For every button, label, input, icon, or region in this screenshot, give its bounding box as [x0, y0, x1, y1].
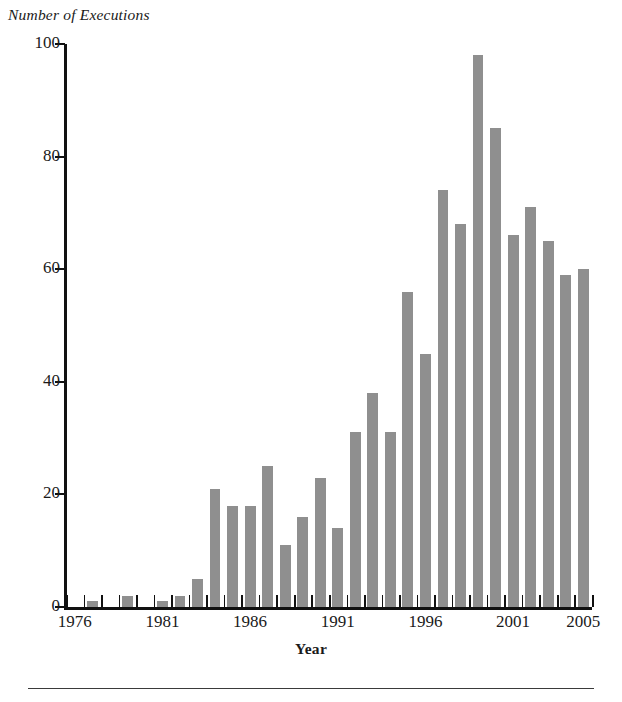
x-tick-mark — [136, 595, 138, 607]
bar-1982 — [175, 596, 186, 607]
y-axis-title: Number of Executions — [8, 6, 150, 24]
x-tick-mark — [171, 595, 173, 607]
y-tick-label: 100 — [20, 33, 60, 53]
y-axis-line — [64, 44, 67, 607]
x-tick-mark — [382, 595, 384, 607]
y-tick-label: 80 — [20, 146, 60, 166]
x-tick-label-2001: 2001 — [496, 612, 530, 632]
bar-1997 — [438, 190, 449, 607]
bar-1999 — [473, 55, 484, 607]
x-tick-mark — [347, 595, 349, 607]
y-tick-label: 0 — [20, 596, 60, 616]
x-tick-mark — [206, 595, 208, 607]
bar-2003 — [543, 241, 554, 607]
bar-1995 — [402, 292, 413, 607]
y-tick-label: 20 — [20, 483, 60, 503]
x-tick-mark — [311, 595, 313, 607]
x-tick-mark — [66, 595, 68, 607]
x-tick-label-1986: 1986 — [233, 612, 267, 632]
bar-1998 — [455, 224, 466, 607]
bar-1984 — [210, 489, 221, 607]
x-tick-mark — [259, 595, 261, 607]
x-tick-mark — [487, 595, 489, 607]
bar-1979 — [122, 596, 133, 607]
bar-1981 — [157, 601, 168, 607]
x-tick-mark — [189, 595, 191, 607]
x-tick-mark — [399, 595, 401, 607]
x-tick-label-1991: 1991 — [321, 612, 355, 632]
x-axis-line — [64, 607, 592, 610]
x-tick-mark — [154, 595, 156, 607]
x-tick-mark — [522, 595, 524, 607]
x-tick-mark — [539, 595, 541, 607]
x-tick-mark — [119, 595, 121, 607]
x-tick-mark — [469, 595, 471, 607]
x-tick-mark — [224, 595, 226, 607]
bar-2000 — [490, 128, 501, 607]
x-tick-mark — [364, 595, 366, 607]
bar-1993 — [367, 393, 378, 607]
x-tick-label-1976: 1976 — [58, 612, 92, 632]
x-tick-mark — [241, 595, 243, 607]
x-tick-mark — [452, 595, 454, 607]
x-tick-mark — [504, 595, 506, 607]
x-tick-mark — [84, 595, 86, 607]
bar-2004 — [560, 275, 571, 607]
x-tick-label-1981: 1981 — [145, 612, 179, 632]
x-tick-mark — [592, 595, 594, 607]
y-tick-label: 40 — [20, 371, 60, 391]
bar-1989 — [297, 517, 308, 607]
x-tick-mark — [101, 595, 103, 607]
bar-1990 — [315, 478, 326, 607]
bar-2001 — [508, 235, 519, 607]
bar-2005 — [578, 269, 589, 607]
x-tick-label-1996: 1996 — [408, 612, 442, 632]
executions-bar-chart-figure: Number of Executions 020406080100 197619… — [0, 0, 622, 702]
bar-1977 — [87, 601, 98, 607]
bar-1985 — [227, 506, 238, 607]
x-tick-mark — [294, 595, 296, 607]
x-tick-mark — [557, 595, 559, 607]
bar-1991 — [332, 528, 343, 607]
x-tick-mark — [276, 595, 278, 607]
x-tick-mark — [417, 595, 419, 607]
bar-1987 — [262, 466, 273, 607]
bar-2002 — [525, 207, 536, 607]
bar-1994 — [385, 432, 396, 607]
bar-1996 — [420, 354, 431, 607]
bar-1986 — [245, 506, 256, 607]
x-tick-mark — [329, 595, 331, 607]
x-tick-mark — [434, 595, 436, 607]
plot-area: 020406080100 197619811986199119962001200… — [66, 44, 592, 607]
y-tick-label: 60 — [20, 258, 60, 278]
bar-1992 — [350, 432, 361, 607]
x-tick-mark — [574, 595, 576, 607]
x-tick-label-2005: 2005 — [566, 612, 600, 632]
footer-rule — [28, 688, 594, 689]
bar-1983 — [192, 579, 203, 607]
bar-1988 — [280, 545, 291, 607]
x-axis-title: Year — [0, 640, 622, 658]
